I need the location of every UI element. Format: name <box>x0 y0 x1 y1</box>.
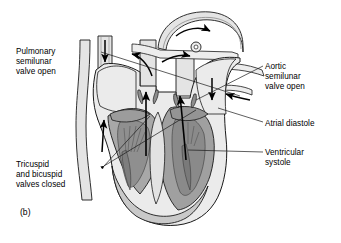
label-ventricular-systole: Ventricular systole <box>265 148 339 168</box>
arrow-pulmonary-vein-inflow-lateral <box>226 94 250 100</box>
heart-body-group <box>93 57 240 225</box>
arrow-aortic-arch-outflow <box>176 28 210 36</box>
figure-caption: (b) <box>20 207 31 217</box>
vessel-ostium-inner <box>194 45 198 49</box>
figure-heart-cardiac-cycle: Pulmonary semilunar valve open Tricuspid… <box>0 0 341 243</box>
label-aortic-semilunar-valve: Aortic semilunar valve open <box>265 62 339 93</box>
label-tricuspid-and-bicuspid-valves: Tricuspid and bicuspid valves closed <box>16 160 102 191</box>
label-atrial-diastole: Atrial diastole <box>265 119 341 129</box>
right-atrium-chamber <box>97 66 136 112</box>
label-pulmonary-semilunar-valve: Pulmonary semilunar valve open <box>16 47 100 78</box>
